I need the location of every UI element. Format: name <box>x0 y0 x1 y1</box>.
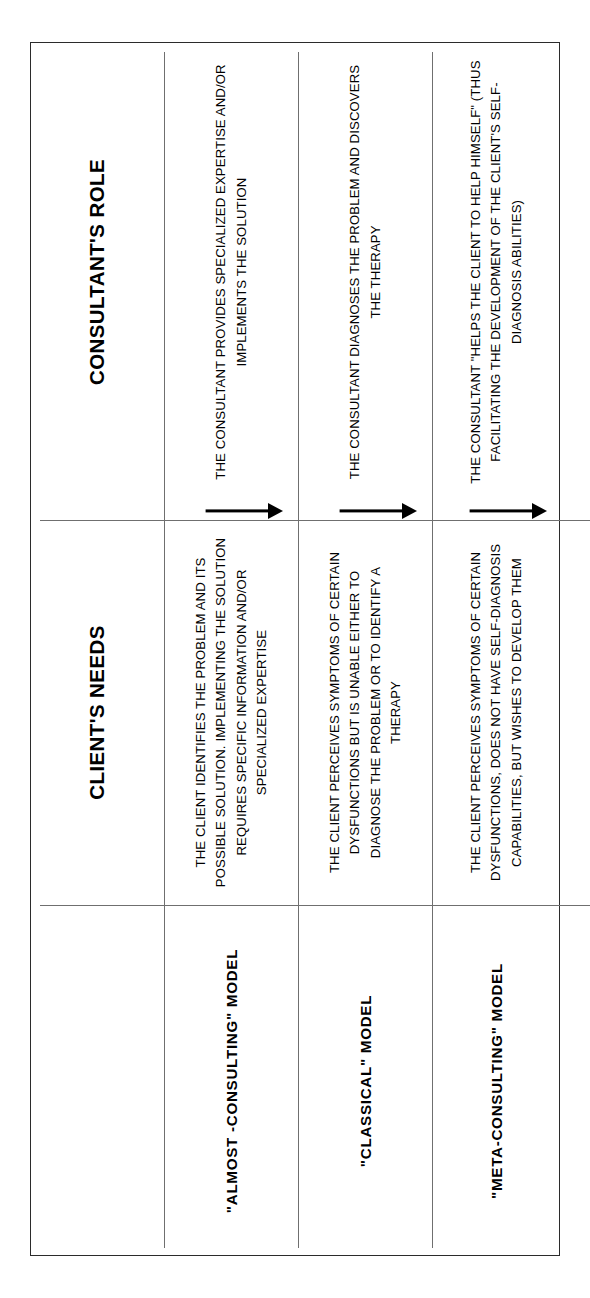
consultant-role-classical: THE CONSULTANT DIAGNOSES THE PROBLEM AND… <box>299 48 432 496</box>
client-needs-classical: THE CLIENT PERCEIVES SYMPTOMS OF CERTAIN… <box>299 525 432 900</box>
model-name-almost-consulting-header: "ALMOST -CONSULTING" MODEL <box>222 949 242 1213</box>
model-header-meta: "META-CONSULTING" MODEL <box>433 912 560 1250</box>
client-needs-classical-text: THE CLIENT PERCEIVES SYMPTOMS OF CERTAIN… <box>325 535 407 890</box>
arrow-shaft <box>470 509 540 512</box>
model-name-meta-consulting-header: "META-CONSULTING" MODEL <box>487 963 507 1199</box>
consultant-role-meta-consulting: THE CONSULTANT "HELPS THE CLIENT TO HELP… <box>433 48 560 496</box>
model-header-classical: "CLASSICAL" MODEL <box>299 912 432 1250</box>
arrow-head <box>402 504 417 520</box>
consultant-role-almost-consulting: THE CONSULTANT PROVIDES SPECIALIZED EXPE… <box>165 48 298 496</box>
rotated-table-stage: CLIENT'S NEEDS CONSULTANT'S ROLE "ALMOST… <box>30 42 560 1256</box>
model-name-classical-header: "CLASSICAL" MODEL <box>356 995 376 1167</box>
client-needs-almost-consulting-text: THE CLIENT IDENTIFIES THE PROBLEM AND IT… <box>191 535 273 890</box>
client-needs-meta-consulting-text: THE CLIENT PERCEIVES SYMPTOMS OF CERTAIN… <box>466 535 527 890</box>
page-canvas: CLIENT'S NEEDS CONSULTANT'S ROLE "ALMOST… <box>0 0 590 1298</box>
client-needs-almost-consulting: THE CLIENT IDENTIFIES THE PROBLEM AND IT… <box>165 525 298 900</box>
arrow-head <box>532 504 547 520</box>
arrow-shaft <box>340 509 410 512</box>
consultant-role-meta-consulting-text: THE CONSULTANT "HELPS THE CLIENT TO HELP… <box>466 58 527 486</box>
arrow-head <box>268 504 283 520</box>
model-header-almost: "ALMOST -CONSULTING" MODEL <box>165 912 298 1250</box>
client-needs-meta-consulting: THE CLIENT PERCEIVES SYMPTOMS OF CERTAIN… <box>433 525 560 900</box>
table-content: "ALMOST -CONSULTING" MODEL "CLASSICAL" M… <box>30 42 560 1256</box>
consultant-role-classical-text: THE CONSULTANT DIAGNOSES THE PROBLEM AND… <box>345 58 386 486</box>
arrow-shaft <box>206 509 276 512</box>
consultant-role-almost-consulting-text: THE CONSULTANT PROVIDES SPECIALIZED EXPE… <box>211 58 252 486</box>
